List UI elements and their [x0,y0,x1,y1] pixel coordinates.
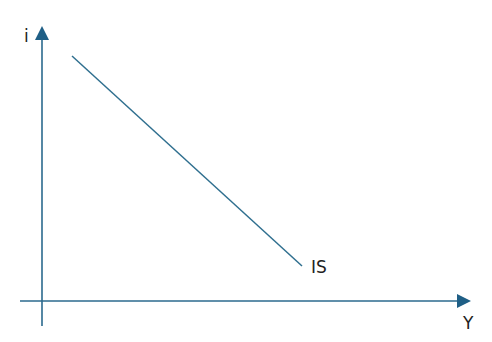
is-curve [72,56,302,266]
x-axis-arrow-icon [457,294,471,308]
is-curve-label: IS [311,259,327,276]
y-axis-label: i [24,28,29,45]
is-diagram [0,0,492,342]
y-axis-arrow-icon [35,26,49,40]
x-axis-label: Y [463,315,473,332]
